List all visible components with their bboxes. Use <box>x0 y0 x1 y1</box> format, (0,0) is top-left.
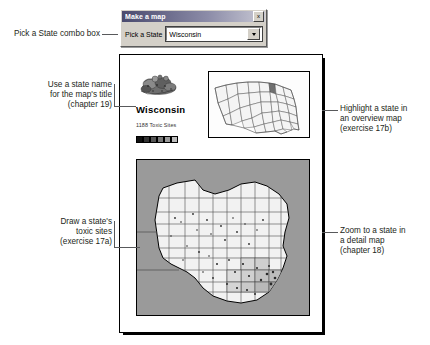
leader-line-title-vertical <box>114 84 115 106</box>
pick-a-state-value: Wisconsin <box>167 31 247 38</box>
make-a-map-dialog[interactable]: Make a map x Pick a State Wisconsin <box>120 9 267 47</box>
leader-line-toxic <box>114 247 140 248</box>
close-icon[interactable]: x <box>253 11 264 22</box>
leader-line-combo <box>102 34 118 35</box>
callout-detail-map: Zoom to a state in a detail map (chapter… <box>340 226 428 257</box>
chevron-down-icon[interactable] <box>247 28 260 40</box>
wisconsin-county-detail-map <box>136 159 310 316</box>
map-page: Wisconsin 1188 Toxic Sites <box>119 54 323 333</box>
leader-line-overview <box>322 110 338 111</box>
leader-line-title <box>114 106 136 107</box>
leader-line-detail <box>322 232 338 233</box>
callout-map-title: Use a state name for the map's title (ch… <box>20 80 112 111</box>
us-overview-map <box>208 71 310 138</box>
dialog-title: Make a map <box>125 11 253 22</box>
pick-a-state-combo-box[interactable]: Wisconsin <box>166 27 262 41</box>
pick-a-state-label: Pick a State <box>125 31 162 38</box>
callout-combo-box: Pick a State combo box <box>4 29 100 39</box>
callout-toxic-sites: Draw a state's toxic sites (exercise 17a… <box>20 217 112 248</box>
callout-overview-map: Highlight a state in an overview map (ex… <box>340 104 428 135</box>
leader-line-toxic-vertical <box>114 221 115 247</box>
decorative-clipart-icon <box>136 71 182 98</box>
dialog-titlebar[interactable]: Make a map x <box>122 11 265 22</box>
dialog-body: Pick a State Wisconsin <box>121 23 266 46</box>
